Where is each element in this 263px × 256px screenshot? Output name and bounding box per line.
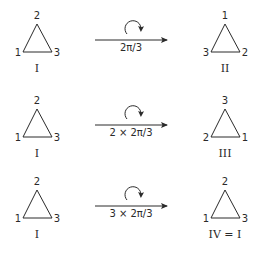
- configuration-label: II: [221, 62, 230, 75]
- configuration-label: III: [218, 147, 231, 160]
- vertex-left-label: 1: [15, 47, 21, 58]
- operation-label: 2π/3: [120, 42, 142, 53]
- rotation-diagram: 2 1 3 I 2π/3 1 3 2 II 2 1 3 I: [0, 0, 263, 256]
- vertex-right-label: 3: [242, 213, 248, 224]
- rotation-operation: 2 × 2π/3: [95, 106, 167, 138]
- vertex-top-label: 2: [222, 176, 228, 187]
- vertex-right-label: 2: [242, 47, 248, 58]
- triangle-right: 2 1 3 IV = I: [203, 176, 248, 241]
- vertex-right-label: 1: [242, 132, 248, 143]
- rotation-operation: 2π/3: [95, 21, 167, 53]
- vertex-right-label: 3: [54, 213, 60, 224]
- configuration-label: IV = I: [209, 228, 242, 241]
- configuration-label: I: [35, 147, 39, 160]
- operation-label: 3 × 2π/3: [109, 208, 152, 219]
- triangle-left: 2 1 3 I: [15, 95, 60, 160]
- row-3: 2 1 3 I 3 × 2π/3 2 1 3 IV = I: [15, 176, 248, 241]
- operation-label: 2 × 2π/3: [109, 127, 152, 138]
- vertex-top-label: 2: [34, 10, 40, 21]
- triangle-right: 3 2 1 III: [203, 95, 248, 160]
- vertex-left-label: 1: [203, 213, 209, 224]
- vertex-right-label: 3: [54, 132, 60, 143]
- vertex-left-label: 2: [203, 132, 209, 143]
- triangle-left: 2 1 3 I: [15, 176, 60, 241]
- row-2: 2 1 3 I 2 × 2π/3 3 2 1 III: [15, 95, 248, 160]
- vertex-right-label: 3: [54, 47, 60, 58]
- triangle-left: 2 1 3 I: [15, 10, 60, 75]
- row-1: 2 1 3 I 2π/3 1 3 2 II: [15, 10, 248, 75]
- vertex-top-label: 1: [222, 10, 228, 21]
- clockwise-rotation-arrow-icon: [125, 187, 141, 200]
- configuration-label: I: [35, 228, 39, 241]
- vertex-left-label: 1: [15, 213, 21, 224]
- clockwise-rotation-arrow-icon: [125, 21, 141, 34]
- rotation-operation: 3 × 2π/3: [95, 187, 167, 219]
- vertex-top-label: 3: [222, 95, 228, 106]
- vertex-top-label: 2: [34, 176, 40, 187]
- configuration-label: I: [35, 62, 39, 75]
- triangle-right: 1 3 2 II: [203, 10, 248, 75]
- vertex-left-label: 3: [203, 47, 209, 58]
- clockwise-rotation-arrow-icon: [125, 106, 141, 119]
- vertex-left-label: 1: [15, 132, 21, 143]
- vertex-top-label: 2: [34, 95, 40, 106]
